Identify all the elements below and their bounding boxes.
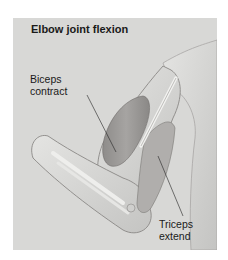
triceps-label-line1: Triceps — [159, 218, 193, 230]
triceps-label-line2: extend — [159, 230, 193, 242]
figure-title: Elbow joint flexion — [31, 23, 128, 35]
arm-illustration — [13, 18, 217, 250]
biceps-label: Biceps contract — [30, 73, 67, 97]
biceps-label-line1: Biceps — [30, 73, 67, 85]
figure-panel: Elbow joint flexion Biceps contract Tric… — [13, 18, 217, 250]
biceps-label-line2: contract — [30, 85, 67, 97]
triceps-label: Triceps extend — [159, 218, 193, 242]
elbow-joint — [127, 204, 135, 212]
